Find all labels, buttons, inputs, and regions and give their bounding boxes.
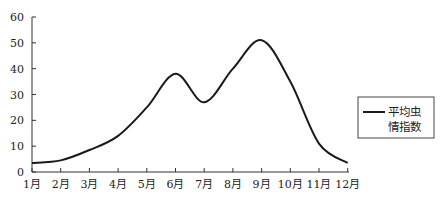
legend: 平均虫 情指数 [358,97,434,138]
y-tick-label: 60 [10,11,24,24]
x-tick-label: 7月 [195,178,213,191]
x-tick-label: 3月 [80,178,98,191]
x-tick-label: 12月 [335,178,360,191]
y-tick-label: 50 [10,37,24,50]
y-axis: 0102030405060 [10,11,36,179]
x-tick-label: 1月 [23,178,41,191]
x-tick-label: 9月 [253,178,271,191]
x-tick-label: 11月 [307,178,332,191]
y-tick-label: 20 [10,114,24,127]
x-axis: 1月2月3月4月5月6月7月8月9月10月11月12月 [23,168,360,191]
series-line [32,40,348,163]
legend-label-line1: 平均虫 [388,105,421,119]
x-tick-label: 8月 [224,178,242,191]
x-tick-label: 5月 [138,178,156,191]
x-tick-label: 6月 [167,178,185,191]
x-tick-label: 4月 [109,178,127,191]
y-tick-label: 30 [10,89,24,102]
x-tick-label: 2月 [52,178,70,191]
y-tick-label: 10 [10,140,24,153]
x-tick-label: 10月 [278,178,303,191]
y-tick-label: 40 [10,63,24,76]
legend-label-line2: 情指数 [388,120,422,134]
line-chart: 0102030405060 1月2月3月4月5月6月7月8月9月10月11月12… [0,0,442,202]
